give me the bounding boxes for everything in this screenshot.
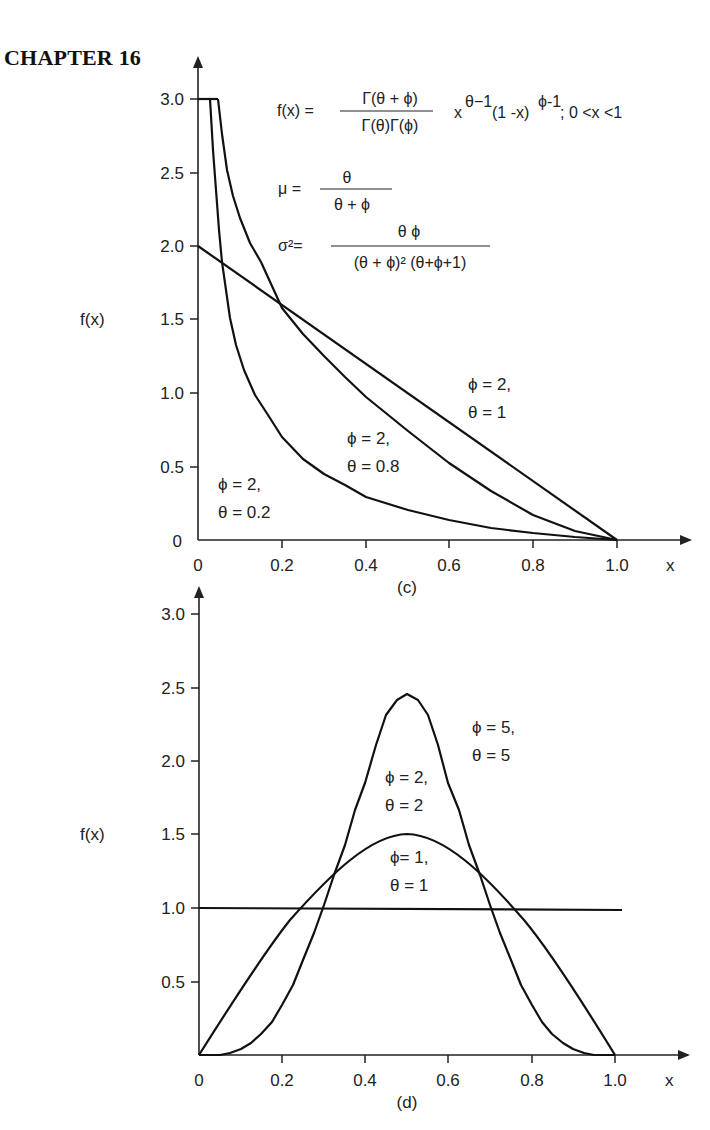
panel-label-d: (d) (397, 1093, 418, 1112)
svg-text:1.0: 1.0 (605, 556, 629, 575)
x-ticks-c (282, 540, 617, 548)
svg-text:1.0: 1.0 (603, 1071, 627, 1090)
svg-text:ϕ = 2,: ϕ = 2, (347, 429, 390, 448)
svg-text:x: x (454, 104, 462, 121)
annotation-phi2-theta1: ϕ = 2, θ = 1 (468, 375, 511, 422)
mean-formula: μ = θ θ + ϕ (278, 169, 392, 213)
curve-phi1-theta1 (199, 908, 622, 910)
svg-text:0.4: 0.4 (354, 556, 378, 575)
svg-text:0.8: 0.8 (520, 1071, 544, 1090)
svg-text:ϕ = 2,: ϕ = 2, (385, 768, 428, 787)
svg-text:0.8: 0.8 (521, 556, 545, 575)
svg-text:0.5: 0.5 (161, 973, 185, 992)
curve-phi5-theta5 (199, 694, 615, 1055)
svg-text:0.4: 0.4 (353, 1071, 377, 1090)
figure: 3.0 2.5 2.0 1.5 1.0 0.5 0 f(x) 0 0.2 0.4… (0, 0, 710, 1130)
y-tick-labels-c: 3.0 2.5 2.0 1.5 1.0 0.5 0 (160, 90, 184, 551)
chart-d: 3.0 2.5 2.0 1.5 1.0 0.5 f(x) 0 0.2 0.4 0… (80, 588, 688, 1112)
curve-phi2-theta2-smooth (199, 834, 615, 1055)
svg-text:ϕ-1: ϕ-1 (538, 93, 561, 110)
y-axis-label-d: f(x) (80, 825, 105, 844)
svg-text:ϕ = 2,: ϕ = 2, (218, 475, 261, 494)
svg-text:0.6: 0.6 (437, 556, 461, 575)
pdf-formula: f(x) = Γ(θ + ϕ) Γ(θ)Γ(ϕ) x θ−1 (1 -x) ϕ-… (277, 90, 622, 134)
svg-text:Γ(θ + ϕ): Γ(θ + ϕ) (362, 90, 418, 107)
x-tick-labels-d: 0 0.2 0.4 0.6 0.8 1.0 (194, 1071, 627, 1090)
svg-text:; 0 <x <1: ; 0 <x <1 (560, 104, 622, 121)
annotation-phi5-theta5: ϕ = 5, θ = 5 (472, 718, 515, 765)
svg-text:2.0: 2.0 (160, 237, 184, 256)
curve-phi2-theta1 (198, 246, 617, 540)
annotation-phi1-theta1: ϕ= 1, θ = 1 (390, 848, 428, 895)
annotation-phi2-theta0.8: ϕ = 2, θ = 0.8 (347, 429, 399, 476)
svg-text:θ ϕ: θ ϕ (398, 223, 420, 240)
svg-text:Γ(θ)Γ(ϕ): Γ(θ)Γ(ϕ) (362, 117, 419, 134)
svg-text:2.5: 2.5 (161, 679, 185, 698)
svg-text:θ = 0.2: θ = 0.2 (218, 503, 270, 522)
svg-text:θ = 5: θ = 5 (472, 746, 510, 765)
y-axis-label-c: f(x) (80, 310, 105, 329)
svg-text:ϕ= 1,: ϕ= 1, (390, 848, 428, 867)
svg-text:0.6: 0.6 (436, 1071, 460, 1090)
y-ticks-d (191, 614, 199, 982)
svg-text:θ: θ (343, 169, 352, 186)
x-ticks-d (282, 1055, 615, 1063)
annotation-phi2-theta2: ϕ = 2, θ = 2 (385, 768, 428, 815)
x-axis-label-c: x (666, 556, 675, 575)
svg-text:0.2: 0.2 (270, 1071, 294, 1090)
svg-text:(θ + ϕ)² (θ+ϕ+1): (θ + ϕ)² (θ+ϕ+1) (354, 254, 467, 271)
svg-text:1.0: 1.0 (160, 384, 184, 403)
chart-c: 3.0 2.5 2.0 1.5 1.0 0.5 0 f(x) 0 0.2 0.4… (80, 58, 690, 597)
svg-text:σ²=: σ²= (278, 237, 303, 254)
svg-text:3.0: 3.0 (161, 605, 185, 624)
svg-text:2.0: 2.0 (161, 752, 185, 771)
svg-text:θ = 0.8: θ = 0.8 (347, 457, 399, 476)
annotation-phi2-theta0.2: ϕ = 2, θ = 0.2 (218, 475, 270, 522)
svg-text:1.5: 1.5 (160, 310, 184, 329)
y-ticks-c (190, 99, 198, 467)
svg-text:0: 0 (193, 556, 202, 575)
svg-text:θ = 1: θ = 1 (390, 876, 428, 895)
svg-text:0.5: 0.5 (160, 458, 184, 477)
svg-text:0: 0 (194, 1071, 203, 1090)
svg-text:2.5: 2.5 (160, 164, 184, 183)
svg-text:θ−1: θ−1 (465, 93, 492, 110)
svg-text:ϕ = 5,: ϕ = 5, (472, 718, 515, 737)
svg-text:0.2: 0.2 (270, 556, 294, 575)
variance-formula: σ²= θ ϕ (θ + ϕ)² (θ+ϕ+1) (278, 223, 490, 271)
svg-text:3.0: 3.0 (160, 90, 184, 109)
svg-text:μ =: μ = (278, 180, 301, 197)
svg-text:θ = 1: θ = 1 (468, 403, 506, 422)
panel-label-c: (c) (397, 578, 417, 597)
x-tick-labels-c: 0 0.2 0.4 0.6 0.8 1.0 (193, 556, 629, 575)
svg-text:f(x) =: f(x) = (277, 102, 314, 119)
svg-text:1.0: 1.0 (161, 899, 185, 918)
svg-text:1.5: 1.5 (161, 825, 185, 844)
curve-phi2-theta0.8 (218, 99, 617, 540)
y-tick-labels-d: 3.0 2.5 2.0 1.5 1.0 0.5 (161, 605, 185, 992)
svg-text:0: 0 (173, 532, 182, 551)
curve-phi2-theta0.2 (210, 99, 617, 540)
svg-text:(1 -x): (1 -x) (492, 104, 529, 121)
svg-text:θ = 2: θ = 2 (385, 796, 423, 815)
x-axis-label-d: x (665, 1071, 674, 1090)
svg-text:ϕ = 2,: ϕ = 2, (468, 375, 511, 394)
svg-text:θ + ϕ: θ + ϕ (334, 196, 370, 213)
